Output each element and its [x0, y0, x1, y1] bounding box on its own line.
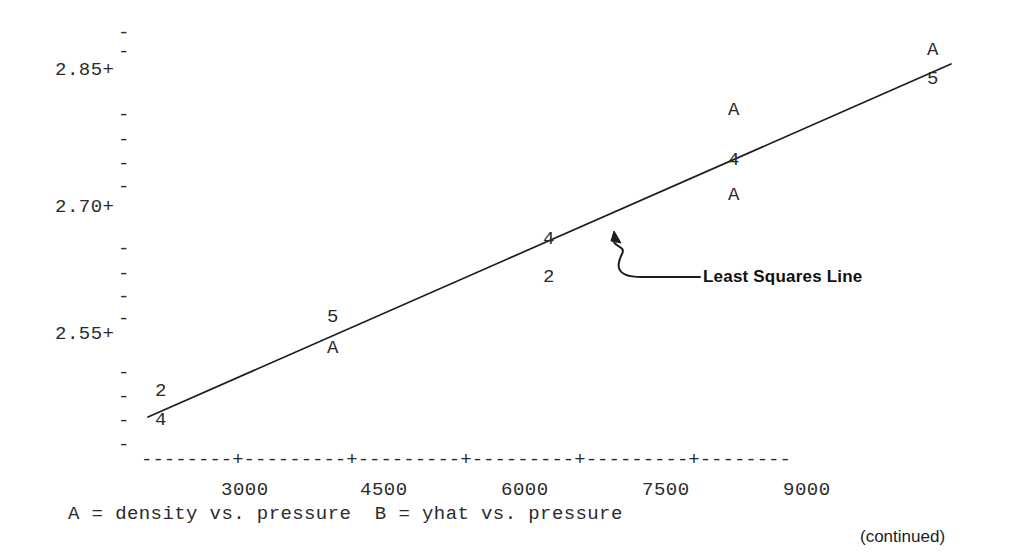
y-axis-tick: - [118, 106, 129, 125]
plot-marker: A [927, 41, 938, 60]
plot-marker: 4 [543, 230, 554, 249]
chart-legend-caption: A = density vs. pressure B = yhat vs. pr… [68, 505, 623, 524]
y-axis-tick: - [118, 265, 129, 284]
y-axis-tick: - [118, 310, 129, 329]
y-axis-tick: - [118, 412, 129, 431]
plot-marker: 2 [543, 268, 554, 287]
plot-marker: 2 [155, 382, 166, 401]
plot-marker: 4 [155, 411, 166, 430]
y-axis-tick: - [118, 364, 129, 383]
x-axis-label: 9000 [783, 481, 831, 500]
y-axis-tick: - [118, 131, 129, 150]
y-axis-tick: - [118, 388, 129, 407]
least-squares-line-annotation: Least Squares Line [703, 268, 863, 285]
plot-marker: A [728, 186, 739, 205]
y-axis-tick: - [118, 288, 129, 307]
x-axis-label: 6000 [501, 481, 549, 500]
plot-marker: A [327, 339, 338, 358]
annotation-leader-curve [614, 236, 700, 277]
x-axis-rule: --------+---------+---------+---------+-… [141, 449, 791, 471]
plot-marker: 5 [927, 70, 938, 89]
y-axis-tick: - [118, 43, 129, 62]
y-axis-tick: - [118, 178, 129, 197]
continued-note: (continued) [860, 528, 945, 545]
y-axis-label: 2.55+ [55, 325, 115, 344]
x-axis-label: 7500 [642, 481, 690, 500]
plot-marker: A [728, 101, 739, 120]
y-axis-tick: - [118, 436, 129, 455]
plot-marker: 5 [327, 308, 338, 327]
annotation-arrowhead [611, 231, 621, 243]
y-axis-label: 2.70+ [55, 198, 115, 217]
plot-marker: 4 [728, 151, 739, 170]
chart-page: 2.85+ 2.70+ 2.55+ - - - - - - - - - - - … [0, 0, 1010, 556]
x-axis-label: 3000 [221, 481, 269, 500]
y-axis-tick: - [118, 155, 129, 174]
y-axis-label: 2.85+ [55, 61, 115, 80]
x-axis-label: 4500 [360, 481, 408, 500]
y-axis-tick: - [118, 240, 129, 259]
